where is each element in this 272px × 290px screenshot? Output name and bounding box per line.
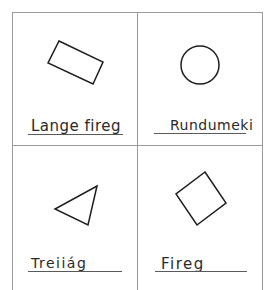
cell-label: Treiiág (31, 255, 87, 271)
cell-label: Rundumeki (170, 117, 253, 133)
cell-square: Fireg (136, 145, 272, 290)
cell-rectangle: Lange fireg (0, 0, 136, 145)
label-underline (28, 134, 123, 135)
cell-triangle: Treiiág (0, 145, 136, 290)
cell-label: Lange fireg (31, 117, 121, 135)
label-underline (155, 271, 247, 272)
cell-circle: Rundumeki (136, 0, 272, 145)
label-underline (154, 133, 246, 134)
shapes-worksheet: Lange fireg Rundumeki Treiiág Fireg (0, 0, 272, 290)
label-underline (28, 271, 122, 272)
